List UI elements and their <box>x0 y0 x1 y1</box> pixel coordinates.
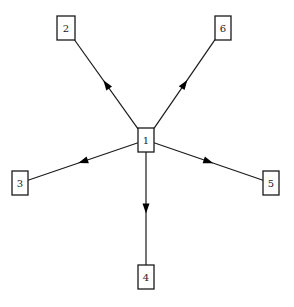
node-label: 3 <box>17 178 23 189</box>
node-1: 1 <box>138 128 154 152</box>
edge-1-to-4 <box>143 152 150 265</box>
edge-1-to-5 <box>154 143 263 180</box>
node-2: 2 <box>57 16 75 40</box>
node-label: 6 <box>220 23 226 34</box>
edge-1-to-2 <box>75 40 138 129</box>
node-label: 5 <box>268 178 274 189</box>
arrowhead-icon <box>203 157 214 164</box>
node-label: 4 <box>143 272 149 283</box>
arrowhead-icon <box>179 80 188 90</box>
arrowhead-icon <box>143 204 150 214</box>
node-5: 5 <box>263 171 279 195</box>
edge-1-to-3 <box>28 143 138 181</box>
node-label: 2 <box>63 23 69 34</box>
node-6: 6 <box>215 16 231 40</box>
arrowhead-icon <box>78 157 89 164</box>
edge-1-to-6 <box>154 40 215 129</box>
arrowhead-icon <box>103 80 112 90</box>
node-label: 1 <box>143 135 149 146</box>
node-4: 4 <box>138 265 154 289</box>
node-3: 3 <box>12 171 28 195</box>
star-graph-diagram: 126354 <box>0 0 294 307</box>
